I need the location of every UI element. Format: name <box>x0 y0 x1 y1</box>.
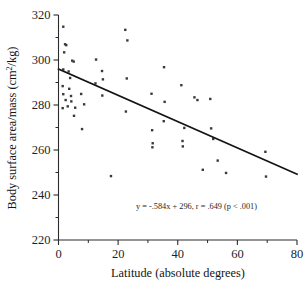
data-point <box>81 128 83 130</box>
data-point <box>126 77 128 79</box>
data-point <box>110 175 112 177</box>
x-tick-label: 40 <box>172 247 185 261</box>
y-axis-title-main: Body surface area/mass (cm <box>5 70 19 209</box>
x-axis-title: Latitude (absolute degrees) <box>111 266 245 280</box>
data-point <box>126 39 128 41</box>
data-point <box>193 96 195 98</box>
data-point <box>101 94 103 96</box>
data-point <box>95 58 97 60</box>
data-point <box>73 60 75 62</box>
data-point <box>163 66 165 68</box>
y-tick-label: 260 <box>32 143 51 157</box>
data-point <box>183 127 185 129</box>
data-point <box>209 98 211 100</box>
data-point <box>151 146 153 148</box>
y-tick-label: 240 <box>32 188 51 202</box>
data-point <box>73 115 75 117</box>
data-point <box>202 169 204 171</box>
data-point <box>152 142 154 144</box>
data-point <box>70 100 72 102</box>
data-point <box>70 95 72 97</box>
data-point <box>196 99 198 101</box>
data-point <box>67 105 69 107</box>
data-point <box>68 88 70 90</box>
data-point <box>83 103 85 105</box>
data-point <box>124 29 126 31</box>
y-tick-label: 220 <box>32 233 51 247</box>
y-axis-title-tail: /kg) <box>5 47 19 67</box>
x-tick-label: 80 <box>291 247 304 261</box>
data-point <box>62 93 64 95</box>
data-point <box>61 85 63 87</box>
y-tick-label: 300 <box>32 53 51 67</box>
data-point <box>74 107 76 109</box>
y-axis-ticks: 220240260280300320 <box>32 8 59 247</box>
x-tick-label: 0 <box>55 247 61 261</box>
data-point <box>102 78 104 80</box>
data-point <box>182 145 184 147</box>
data-point <box>64 99 66 101</box>
regression-annotation: y = -.584x + 296, r = .649 (p < .001) <box>136 202 257 211</box>
plot-canvas: 220240260280300320 020406080 Latitude (a… <box>0 0 308 288</box>
data-point <box>61 107 63 109</box>
regression-line <box>59 69 298 174</box>
x-tick-label: 60 <box>231 247 244 261</box>
data-point <box>163 101 165 103</box>
data-point <box>265 175 267 177</box>
data-point <box>63 51 65 53</box>
data-point <box>80 93 82 95</box>
y-tick-label: 320 <box>32 8 51 22</box>
data-point <box>181 140 183 142</box>
data-point <box>101 70 103 72</box>
data-point <box>163 120 165 122</box>
x-tick-label: 20 <box>112 247 125 261</box>
data-point <box>65 44 67 46</box>
y-tick-label: 280 <box>32 98 51 112</box>
data-point <box>62 26 64 28</box>
y-axis-title: Body surface area/mass (cm2/kg) <box>5 47 19 210</box>
data-point <box>225 172 227 174</box>
data-point <box>151 129 153 131</box>
x-axis-ticks: 020406080 <box>55 240 303 261</box>
scatter-plot-figure: 220240260280300320 020406080 Latitude (a… <box>0 0 308 288</box>
data-point <box>69 77 71 79</box>
data-point <box>216 159 218 161</box>
data-point <box>125 110 127 112</box>
data-points-layer <box>61 26 267 178</box>
data-point <box>264 151 266 153</box>
data-point <box>180 84 182 86</box>
data-point <box>150 93 152 95</box>
data-point <box>210 127 212 129</box>
